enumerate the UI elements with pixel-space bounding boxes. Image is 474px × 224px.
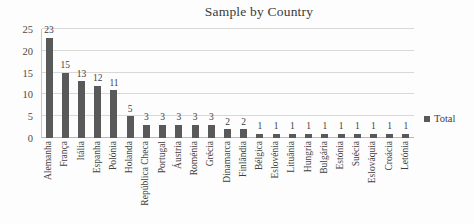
x-axis-tick-label: Grécia	[207, 141, 217, 166]
bar-chart: Sample by Country 0510152025 23151312115…	[0, 0, 474, 224]
bar-group[interactable]: 15	[57, 29, 73, 138]
x-axis-tick-label: Holanda	[125, 141, 135, 173]
bar-group[interactable]: 1	[333, 29, 349, 138]
x-axis-tick: Suécia	[349, 141, 365, 224]
chart-legend: Total	[424, 113, 455, 124]
bar[interactable]	[224, 129, 231, 138]
bar-group[interactable]: 13	[73, 29, 89, 138]
bar-group[interactable]: 2	[219, 29, 235, 138]
bar-group[interactable]: 5	[122, 29, 138, 138]
x-axis-tick: Áustria	[171, 141, 187, 224]
bar-group[interactable]: 1	[365, 29, 381, 138]
bar-group[interactable]: 3	[171, 29, 187, 138]
bar[interactable]	[386, 134, 393, 138]
bar[interactable]	[208, 125, 215, 138]
bar-value-label: 3	[176, 113, 181, 123]
bar-group[interactable]: 1	[301, 29, 317, 138]
bar-group[interactable]: 11	[106, 29, 122, 138]
x-axis-tick: Hungria	[301, 141, 317, 224]
x-axis-tick: Lituânia	[284, 141, 300, 224]
bar-value-label: 13	[77, 70, 87, 80]
bar[interactable]	[159, 125, 166, 138]
bar-group[interactable]: 1	[284, 29, 300, 138]
x-axis-tick-label: França	[61, 141, 71, 167]
bar-group[interactable]: 3	[138, 29, 154, 138]
bar-group[interactable]: 23	[41, 29, 57, 138]
bar[interactable]	[289, 134, 296, 138]
y-axis-tick-label: 25	[23, 24, 34, 35]
bar-value-label: 11	[109, 79, 118, 89]
x-axis-tick-label: Bélgica	[255, 141, 265, 170]
bar-group[interactable]: 1	[382, 29, 398, 138]
bar-value-label: 5	[128, 105, 133, 115]
x-axis-tick-label: Estónia	[336, 141, 346, 170]
x-axis-tick-label: Itália	[77, 141, 87, 161]
bar-group[interactable]: 3	[203, 29, 219, 138]
bar-value-label: 3	[193, 113, 198, 123]
x-axis-tick-label: Roménia	[190, 141, 200, 175]
bar[interactable]	[94, 86, 101, 138]
bar-group[interactable]: 3	[155, 29, 171, 138]
x-axis-tick: Alemanha	[41, 141, 57, 224]
bar-value-label: 2	[241, 118, 246, 128]
bar[interactable]	[370, 134, 377, 138]
x-axis-tick: Eslovénia	[268, 141, 284, 224]
bar[interactable]	[402, 134, 409, 138]
bar-group[interactable]: 1	[252, 29, 268, 138]
x-axis-tick-label: Eslováquia	[369, 141, 379, 183]
x-axis-tick: Dinamarca	[219, 141, 235, 224]
bar[interactable]	[273, 134, 280, 138]
legend-swatch-total	[424, 116, 430, 122]
x-axis-tick-label: Suécia	[353, 141, 363, 166]
x-axis-tick: Itália	[73, 141, 89, 224]
bar-value-label: 1	[258, 122, 263, 132]
bar-group[interactable]: 12	[90, 29, 106, 138]
x-axis-tick-label: Lituânia	[288, 141, 298, 173]
x-axis-tick-label: Hungria	[304, 141, 314, 172]
bar[interactable]	[305, 134, 312, 138]
bar-value-label: 1	[290, 122, 295, 132]
bar-value-label: 1	[306, 122, 311, 132]
x-axis-tick: Polónia	[106, 141, 122, 224]
x-axis-tick-label: Alemanha	[44, 141, 54, 180]
bar[interactable]	[338, 134, 345, 138]
bar-group[interactable]: 1	[268, 29, 284, 138]
bar-group[interactable]: 1	[317, 29, 333, 138]
bar-value-label: 3	[209, 113, 214, 123]
bar-group[interactable]: 1	[398, 29, 414, 138]
chart-title: Sample by Country	[0, 4, 474, 20]
y-axis-tick-label: 10	[23, 89, 34, 100]
bar[interactable]	[192, 125, 199, 138]
bar[interactable]	[143, 125, 150, 138]
x-axis-tick: Eslováquia	[365, 141, 381, 224]
x-axis-tick-label: Finlândia	[239, 141, 249, 177]
bar-group[interactable]: 2	[236, 29, 252, 138]
bar[interactable]	[46, 38, 53, 138]
x-axis-tick-label: Bulgária	[320, 141, 330, 174]
bar[interactable]	[110, 90, 117, 138]
x-axis-tick-label: Eslovénia	[271, 141, 281, 178]
bar[interactable]	[354, 134, 361, 138]
x-axis-tick-label: Espanha	[93, 141, 103, 173]
bar-value-label: 3	[144, 113, 149, 123]
y-axis-tick-label: 20	[23, 45, 34, 56]
y-axis-tick-label: 5	[28, 111, 33, 122]
bar[interactable]	[62, 73, 69, 138]
x-axis-tick-label: Áustria	[174, 141, 184, 169]
bar[interactable]	[78, 81, 85, 138]
x-axis-tick: Holanda	[122, 141, 138, 224]
bar-value-label: 2	[225, 118, 230, 128]
bar[interactable]	[256, 134, 263, 138]
bar-group[interactable]: 3	[187, 29, 203, 138]
x-axis-tick: Espanha	[90, 141, 106, 224]
bar[interactable]	[240, 129, 247, 138]
bars-layer: 2315131211533333221111111111	[41, 29, 414, 138]
bar-value-label: 1	[404, 122, 409, 132]
bar[interactable]	[127, 116, 134, 138]
x-axis-tick: Roménia	[187, 141, 203, 224]
bar[interactable]	[175, 125, 182, 138]
bar[interactable]	[321, 134, 328, 138]
x-axis-tick: República Checa	[138, 141, 154, 224]
bar-group[interactable]: 1	[349, 29, 365, 138]
x-axis-tick-label: Dinamarca	[223, 141, 233, 183]
